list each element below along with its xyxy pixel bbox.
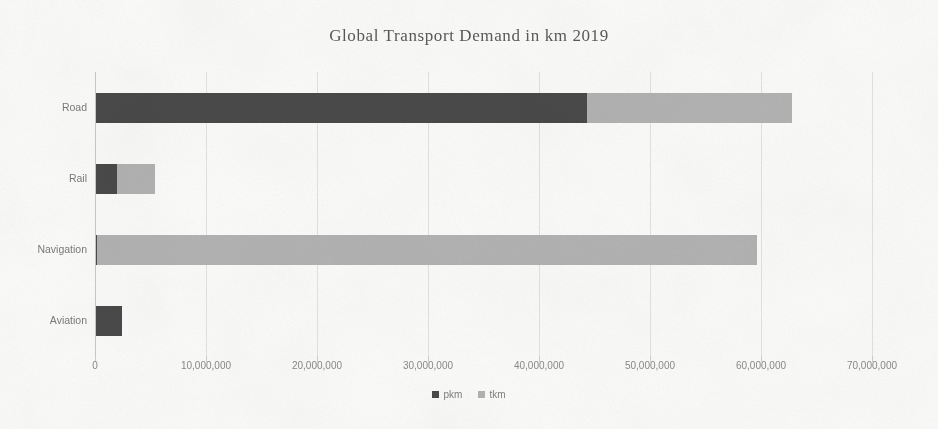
bar-segment-pkm[interactable] bbox=[95, 306, 122, 336]
chart-title: Global Transport Demand in km 2019 bbox=[0, 26, 938, 46]
gridline bbox=[872, 72, 873, 356]
x-axis-tick-label: 70,000,000 bbox=[847, 360, 897, 371]
legend-item-tkm[interactable]: tkm bbox=[478, 389, 505, 400]
y-axis-category-labels: RoadRailNavigationAviation bbox=[0, 72, 87, 356]
bar-segment-tkm[interactable] bbox=[117, 164, 155, 194]
bar-segment-tkm[interactable] bbox=[97, 235, 756, 265]
y-axis-label-road: Road bbox=[1, 101, 87, 113]
bar-segment-pkm[interactable] bbox=[95, 164, 117, 194]
plot-area bbox=[95, 72, 872, 356]
legend-swatch-tkm bbox=[478, 391, 485, 398]
chart-legend: pkmtkm bbox=[0, 389, 938, 400]
x-axis-tick-label: 60,000,000 bbox=[736, 360, 786, 371]
legend-label-tkm: tkm bbox=[489, 389, 505, 400]
x-axis-tick-label: 10,000,000 bbox=[181, 360, 231, 371]
legend-label-pkm: pkm bbox=[443, 389, 462, 400]
chart-container: Global Transport Demand in km 2019 RoadR… bbox=[0, 0, 938, 429]
y-axis-label-navigation: Navigation bbox=[1, 243, 87, 255]
y-axis-label-rail: Rail bbox=[1, 172, 87, 184]
x-axis-tick-label: 30,000,000 bbox=[403, 360, 453, 371]
legend-swatch-pkm bbox=[432, 391, 439, 398]
y-axis-line bbox=[95, 72, 96, 356]
bar-segment-pkm[interactable] bbox=[95, 93, 587, 123]
y-axis-label-aviation: Aviation bbox=[1, 314, 87, 326]
x-axis-tick-label: 40,000,000 bbox=[514, 360, 564, 371]
legend-item-pkm[interactable]: pkm bbox=[432, 389, 462, 400]
x-axis-tick-label: 20,000,000 bbox=[292, 360, 342, 371]
bar-segment-tkm[interactable] bbox=[587, 93, 792, 123]
x-axis-tick-label: 0 bbox=[92, 360, 98, 371]
x-axis-tick-label: 50,000,000 bbox=[625, 360, 675, 371]
x-axis-tick-labels: 010,000,00020,000,00030,000,00040,000,00… bbox=[0, 360, 938, 378]
